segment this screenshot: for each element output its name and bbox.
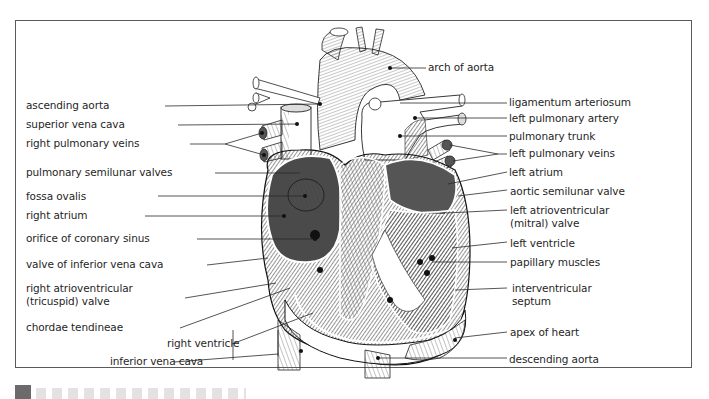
label-interventricular-line1: interventricular bbox=[512, 282, 592, 294]
label-arch-of-aorta: arch of aorta bbox=[428, 61, 494, 74]
label-right-atrioventricular-line2: (tricuspid) valve bbox=[26, 295, 133, 308]
label-superior-vena-cava: superior vena cava bbox=[26, 118, 125, 131]
label-chordae-tendineae: chordae tendineae bbox=[26, 321, 123, 334]
label-orifice-of-coronary-sinus: orifice of coronary sinus bbox=[26, 232, 150, 245]
label-papillary-muscles: papillary muscles bbox=[510, 256, 600, 269]
label-interventricular-line2: septum bbox=[512, 295, 592, 308]
label-right-atrium: right atrium bbox=[26, 209, 87, 222]
label-inferior-vena-cava: inferior vena cava bbox=[110, 355, 203, 368]
great-vessels bbox=[248, 27, 466, 172]
label-left-ventricle: left ventricle bbox=[510, 237, 575, 250]
label-ligamentum-arteriosum: ligamentum arteriosum bbox=[509, 96, 631, 109]
label-fossa-ovalis: fossa ovalis bbox=[26, 190, 86, 203]
label-right-atrioventricular-line1: right atrioventricular bbox=[26, 282, 133, 294]
caption-fragment-cropped bbox=[36, 388, 246, 399]
label-right-pulmonary-veins: right pulmonary veins bbox=[26, 137, 139, 150]
caption-marker-square bbox=[15, 385, 31, 399]
heart-body bbox=[262, 150, 471, 378]
label-right-ventricle: right ventricle bbox=[167, 337, 239, 350]
label-interventricular-septum: interventricular septum bbox=[512, 282, 592, 308]
label-left-atrioventricular-line1: left atrioventricular bbox=[510, 204, 609, 216]
label-apex-of-heart: apex of heart bbox=[510, 326, 579, 339]
label-left-atrioventricular-line2: (mitral) valve bbox=[510, 217, 609, 230]
label-aortic-semilunar-valve: aortic semilunar valve bbox=[510, 185, 625, 198]
label-pulmonary-semilunar-valves: pulmonary semilunar valves bbox=[26, 166, 172, 179]
heart-diagram-illustration bbox=[0, 0, 709, 399]
label-left-atrium: left atrium bbox=[509, 166, 563, 179]
label-descending-aorta: descending aorta bbox=[509, 353, 599, 366]
label-left-pulmonary-artery: left pulmonary artery bbox=[509, 112, 619, 125]
label-right-atrioventricular-valve: right atrioventricular (tricuspid) valve bbox=[26, 282, 133, 308]
label-left-atrioventricular-valve: left atrioventricular (mitral) valve bbox=[510, 204, 609, 230]
label-pulmonary-trunk: pulmonary trunk bbox=[509, 130, 595, 143]
label-ascending-aorta: ascending aorta bbox=[26, 99, 109, 112]
label-valve-of-inferior-vena-cava: valve of inferior vena cava bbox=[26, 258, 163, 271]
label-left-pulmonary-veins: left pulmonary veins bbox=[509, 147, 615, 160]
